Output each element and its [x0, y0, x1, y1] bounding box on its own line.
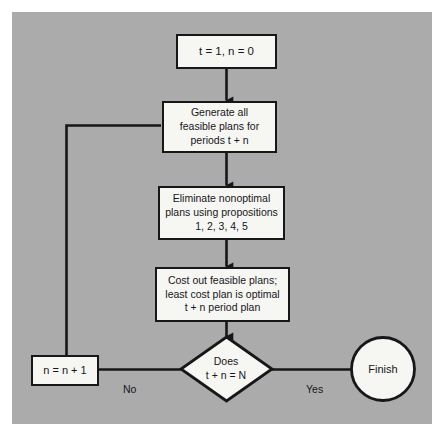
connector-increment-feedback-to-generate	[67, 126, 162, 356]
edge-label-no: No	[123, 383, 136, 395]
node-finish-label-wrapper[interactable]: Finish	[353, 356, 413, 382]
edge-label-yes: Yes	[306, 383, 323, 395]
node-generate-feasible-plans-label: Generate all feasible plans for periods …	[176, 106, 263, 148]
flowchart-page: t = 1, n = 0 Generate all feasible plans…	[0, 0, 441, 437]
node-initialize[interactable]: t = 1, n = 0	[176, 34, 277, 69]
node-increment-n-label: n = n + 1	[39, 363, 90, 378]
node-finish-label: Finish	[368, 363, 397, 375]
node-eliminate-nonoptimal-plans[interactable]: Eliminate nonoptimal plans using proposi…	[158, 186, 285, 240]
node-decision-label: Does t + n = N	[206, 355, 246, 382]
node-decision-label-wrapper[interactable]: Does t + n = N	[190, 352, 262, 386]
node-eliminate-nonoptimal-plans-label: Eliminate nonoptimal plans using proposi…	[161, 192, 282, 234]
node-generate-feasible-plans[interactable]: Generate all feasible plans for periods …	[162, 101, 277, 153]
node-initialize-label: t = 1, n = 0	[195, 44, 258, 59]
node-increment-n[interactable]: n = n + 1	[31, 355, 99, 386]
node-cost-out-feasible-plans-label: Cost out feasible plans; least cost plan…	[161, 274, 283, 316]
node-cost-out-feasible-plans[interactable]: Cost out feasible plans; least cost plan…	[155, 267, 290, 322]
